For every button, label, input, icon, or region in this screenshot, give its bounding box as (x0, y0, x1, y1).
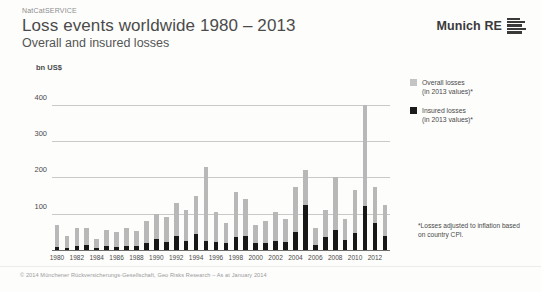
bar-insured-losses (293, 232, 298, 250)
bar-group (300, 95, 310, 250)
bar-overall-losses (283, 219, 288, 242)
bar-group (151, 95, 161, 250)
bar-overall-losses (253, 225, 258, 243)
x-axis-tick: 1994 (191, 254, 201, 266)
bar-overall-losses (333, 177, 338, 230)
bar-overall-losses (273, 212, 278, 241)
x-axis-tick (380, 254, 390, 266)
x-axis-tick: 1998 (231, 254, 241, 266)
page-title: Loss events worldwide 1980 – 2013 (22, 16, 296, 36)
header: NatCatSERVICE Loss events worldwide 1980… (22, 6, 296, 51)
x-axis-tick: 1996 (211, 254, 221, 266)
bar-insured-losses (273, 241, 278, 250)
chart-plot-area: 100200300400 (52, 95, 390, 251)
bar-group (241, 95, 251, 250)
bar-overall-losses (363, 105, 368, 207)
x-axis-tick: 2006 (310, 254, 320, 266)
bar-insured-losses (164, 242, 169, 250)
bar-group (92, 95, 102, 250)
x-axis-tick: 2012 (370, 254, 380, 266)
bar-group (52, 95, 62, 250)
legend-item-overall: Overall losses (in 2013 values)* (410, 78, 473, 96)
legend-overall-line1: Overall losses (422, 79, 465, 86)
bar-insured-losses (353, 233, 358, 250)
bar-overall-losses (164, 217, 169, 242)
bar-insured-losses (234, 237, 239, 250)
bar-overall-losses (114, 232, 119, 247)
x-axis-tick: 2004 (291, 254, 301, 266)
x-axis-tick: 2000 (251, 254, 261, 266)
bar-overall-losses (144, 221, 149, 243)
bar-group (261, 95, 271, 250)
y-axis-tick-label: 200 (34, 165, 47, 174)
legend-label-overall: Overall losses (in 2013 values)* (422, 78, 473, 96)
x-axis-tick: 1992 (171, 254, 181, 266)
bar-group (221, 95, 231, 250)
x-axis-tick: 2010 (350, 254, 360, 266)
bar-group (360, 95, 370, 250)
bar-group (82, 95, 92, 250)
bar-group (112, 95, 122, 250)
x-axis-labels: 1980198219841986198819901992199419961998… (52, 254, 390, 266)
bar-overall-losses (323, 210, 328, 237)
bar-group (132, 95, 142, 250)
bar-group (231, 95, 241, 250)
x-axis-tick: 2008 (330, 254, 340, 266)
bar-group (310, 95, 320, 250)
bar-group (62, 95, 72, 250)
legend-insured-line1: Insured losses (422, 107, 466, 114)
bar-insured-losses (383, 236, 388, 250)
bar-group (291, 95, 301, 250)
chart-legend: Overall losses (in 2013 values)* Insured… (410, 78, 473, 134)
y-axis-tick-label: 300 (34, 129, 47, 138)
bar-overall-losses (383, 205, 388, 237)
bar-group (161, 95, 171, 250)
bar-overall-losses (234, 192, 239, 237)
bar-overall-losses (353, 190, 358, 232)
bar-group (211, 95, 221, 250)
bar-group (330, 95, 340, 250)
bar-overall-losses (154, 214, 159, 239)
legend-item-insured: Insured losses (in 2013 values)* (410, 106, 473, 124)
bar-group (72, 95, 82, 250)
bar-insured-losses (323, 237, 328, 250)
bar-insured-losses (174, 236, 179, 251)
bar-group (122, 95, 132, 250)
bar-overall-losses (134, 231, 139, 246)
x-axis-tick: 1984 (92, 254, 102, 266)
bar-overall-losses (84, 228, 89, 245)
bar-insured-losses (333, 230, 338, 250)
bar-insured-losses (373, 223, 378, 250)
x-axis-tick: 2002 (271, 254, 281, 266)
bar-group (181, 95, 191, 250)
x-axis-line (52, 250, 390, 251)
bar-group (340, 95, 350, 250)
bar-overall-losses (263, 221, 268, 243)
bar-overall-losses (174, 203, 179, 236)
legend-swatch-overall-icon (410, 79, 417, 86)
y-axis-tick-label: 400 (34, 92, 47, 101)
page-subtitle: Overall and insured losses (22, 36, 296, 51)
brand-logo: Munich RE (437, 17, 527, 35)
bar-overall-losses (184, 210, 189, 241)
bar-group (171, 95, 181, 250)
bar-group (102, 95, 112, 250)
bar-group (271, 95, 281, 250)
x-axis-tick: 1986 (112, 254, 122, 266)
bar-overall-losses (293, 187, 298, 232)
munich-re-logo-icon (507, 17, 527, 35)
bar-insured-losses (243, 236, 248, 251)
x-axis-tick: 1990 (151, 254, 161, 266)
bar-overall-losses (343, 219, 348, 240)
x-axis-tick: 1982 (72, 254, 82, 266)
y-axis-tick-label: 100 (34, 201, 47, 210)
bar-insured-losses (283, 242, 288, 250)
x-axis-tick: 1988 (132, 254, 142, 266)
y-axis-unit-label: bn US$ (36, 63, 62, 72)
bar-insured-losses (224, 243, 229, 250)
bar-insured-losses (204, 241, 209, 250)
x-axis-tick: 1980 (52, 254, 62, 266)
bar-insured-losses (184, 241, 189, 250)
bar-overall-losses (55, 225, 60, 247)
bar-insured-losses (154, 239, 159, 250)
